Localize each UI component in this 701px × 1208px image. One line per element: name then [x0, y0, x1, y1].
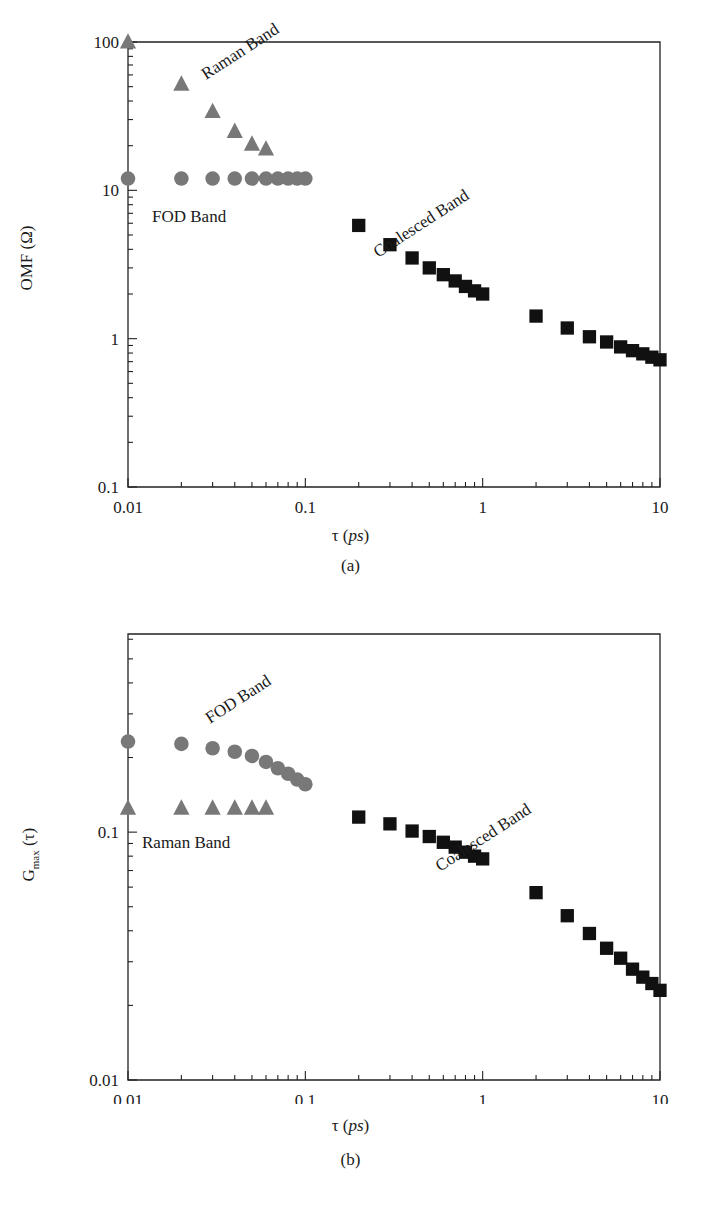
data-point-triangle — [244, 135, 260, 150]
data-point-circle — [245, 171, 260, 186]
data-point-square — [583, 927, 596, 940]
data-point-circle — [121, 171, 136, 186]
x-tick-label: 1 — [478, 1091, 487, 1104]
data-point-square — [561, 909, 574, 922]
panel-caption-a: (a) — [0, 556, 701, 576]
y-tick-label: 1 — [111, 330, 120, 349]
data-point-square — [423, 261, 436, 274]
data-point-square — [653, 353, 666, 366]
data-point-triangle — [120, 799, 136, 814]
y-tick-label: 0.1 — [98, 478, 119, 497]
x-axis-label-b: τ (ps) — [0, 1116, 701, 1136]
x-tick-label: 0.1 — [295, 1091, 316, 1104]
data-point-triangle — [120, 33, 136, 48]
data-point-square — [614, 340, 627, 353]
data-point-triangle — [227, 799, 243, 814]
data-point-square — [405, 824, 418, 837]
data-point-square — [437, 268, 450, 281]
x-axis-label-text-b: τ (ps) — [332, 1116, 370, 1135]
x-tick-label: 10 — [652, 498, 669, 517]
y-tick-label: 0.01 — [89, 1071, 119, 1090]
x-tick-label: 0.01 — [113, 498, 143, 517]
data-point-circle — [227, 744, 242, 759]
figure-panel-b: 0.010.11100.010.1FOD BandRaman BandCoale… — [0, 604, 701, 1208]
data-point-circle — [174, 171, 189, 186]
data-point-triangle — [204, 799, 220, 814]
data-point-square — [476, 852, 489, 865]
annotation-raman-band: Raman Band — [198, 19, 283, 83]
data-point-triangle — [258, 140, 274, 155]
series-fod-band — [121, 734, 313, 791]
y-tick-label: 10 — [102, 181, 119, 200]
data-point-square — [600, 942, 613, 955]
x-tick-label: 10 — [652, 1091, 669, 1104]
data-point-square — [529, 886, 542, 899]
data-point-square — [561, 321, 574, 334]
x-axis-label-text-a: τ (ps) — [332, 526, 370, 545]
data-point-square — [383, 817, 396, 830]
axis-frame — [128, 634, 660, 1080]
data-point-square — [583, 330, 596, 343]
data-point-triangle — [258, 799, 274, 814]
plot-area-b: 0.010.11100.010.1FOD BandRaman BandCoale… — [0, 604, 701, 1104]
y-tick-label: 100 — [94, 33, 120, 52]
x-tick-label: 1 — [478, 498, 487, 517]
x-tick-label: 0.1 — [295, 498, 316, 517]
data-point-circle — [174, 737, 189, 752]
data-point-square — [405, 251, 418, 264]
data-point-circle — [298, 171, 313, 186]
x-axis-label-a: τ (ps) — [0, 526, 701, 546]
data-point-triangle — [244, 799, 260, 814]
plot-area-a: 0.010.11100.1110100Raman BandFOD BandCoa… — [0, 0, 701, 520]
data-point-square — [352, 810, 365, 823]
data-point-square — [437, 836, 450, 849]
data-point-triangle — [173, 75, 189, 90]
data-point-square — [476, 287, 489, 300]
annotation-fod-band: FOD Band — [202, 671, 275, 728]
data-point-circle — [245, 749, 260, 764]
x-tick-label: 0.01 — [113, 1091, 143, 1104]
axis-frame — [128, 42, 660, 487]
data-point-square — [653, 984, 666, 997]
annotation-coalesced-band: Coalesced Band — [370, 185, 473, 261]
annotation-raman-band: Raman Band — [142, 833, 231, 852]
y-axis-label-b: Gmax (τ) — [19, 795, 40, 915]
figure-panel-a: 0.010.11100.1110100Raman BandFOD BandCoa… — [0, 0, 701, 604]
data-point-circle — [227, 171, 242, 186]
data-point-circle — [298, 777, 313, 792]
y-axis-label-text-b: Gmax (τ) — [19, 828, 38, 882]
data-point-circle — [205, 171, 220, 186]
y-axis-label-a: OMF (Ω) — [17, 203, 37, 313]
data-point-square — [600, 335, 613, 348]
data-point-square — [529, 309, 542, 322]
data-point-triangle — [227, 122, 243, 137]
annotation-fod-band: FOD Band — [152, 207, 227, 226]
panel-caption-b: (b) — [0, 1150, 701, 1170]
data-point-square — [423, 830, 436, 843]
series-coalesced-band — [352, 810, 667, 997]
data-point-circle — [205, 741, 220, 756]
data-point-triangle — [204, 103, 220, 118]
y-tick-label: 0.1 — [98, 823, 119, 842]
data-point-square — [614, 952, 627, 965]
data-point-circle — [121, 734, 136, 749]
data-point-square — [352, 219, 365, 232]
series-fod-band — [121, 171, 313, 186]
data-point-triangle — [173, 799, 189, 814]
series-raman-band — [120, 799, 274, 814]
